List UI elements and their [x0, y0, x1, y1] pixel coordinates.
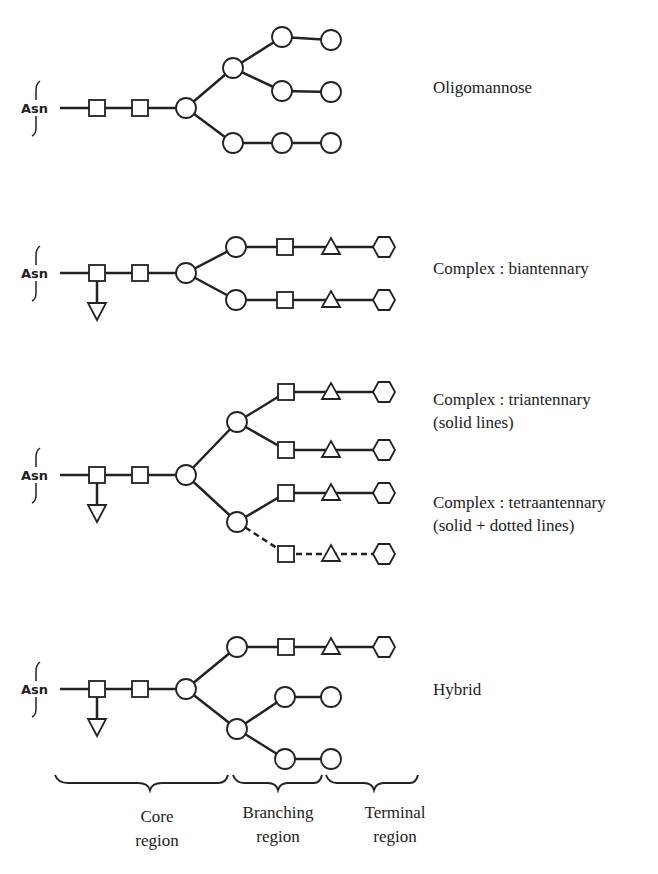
fucose-triangle-icon — [88, 505, 106, 522]
circle-icon — [227, 637, 247, 657]
glycan-diagram: AsnAsnAsnAsn Oligomannose Complex : bian… — [0, 0, 658, 874]
circle-icon — [275, 687, 295, 707]
circle-icon — [227, 719, 247, 739]
square-icon — [132, 100, 148, 116]
circle-icon — [321, 82, 341, 102]
hexagon-icon — [373, 237, 395, 257]
circle-icon — [275, 749, 295, 769]
asn-label: Asn — [21, 468, 48, 483]
square-icon — [277, 239, 293, 255]
square-icon — [132, 265, 148, 281]
square-icon — [277, 292, 293, 308]
asn-label: Asn — [21, 266, 48, 281]
circle-icon — [272, 81, 292, 101]
label-oligomannose: Oligomannose — [433, 78, 532, 97]
core-region-label-2: region — [135, 831, 179, 850]
bond-line — [186, 422, 237, 475]
hexagon-icon — [373, 382, 395, 402]
square-icon — [89, 467, 105, 483]
asn-label: Asn — [21, 101, 48, 116]
square-icon — [278, 639, 294, 655]
label-triantennary: Complex : triantennary — [433, 390, 591, 409]
hexagon-icon — [373, 483, 395, 503]
square-icon — [278, 485, 294, 501]
square-icon — [278, 546, 294, 562]
circle-icon — [223, 58, 243, 78]
circle-icon — [321, 749, 341, 769]
circle-icon — [176, 98, 196, 118]
circle-icon — [223, 133, 243, 153]
circle-icon — [272, 27, 292, 47]
label-hybrid: Hybrid — [433, 680, 482, 699]
label-triantennary-note: (solid lines) — [433, 413, 514, 432]
hexagon-icon — [373, 440, 395, 460]
terminal-region-label-2: region — [373, 827, 417, 846]
branching-region-brace — [233, 775, 322, 790]
circle-icon — [176, 263, 196, 283]
circle-icon — [321, 687, 341, 707]
circle-icon — [272, 133, 292, 153]
label-tetraantennary: Complex : tetraantennary — [433, 493, 606, 512]
label-tetraantennary-note: (solid + dotted lines) — [433, 516, 574, 535]
circle-icon — [227, 512, 247, 532]
circle-icon — [226, 290, 246, 310]
hexagon-icon — [373, 544, 395, 564]
square-icon — [89, 681, 105, 697]
branching-region-label-2: region — [256, 827, 300, 846]
square-icon — [278, 442, 294, 458]
square-icon — [89, 265, 105, 281]
terminal-region-brace — [326, 775, 418, 790]
square-icon — [132, 467, 148, 483]
asn-anchors: AsnAsnAsnAsn — [21, 81, 48, 717]
square-icon — [89, 100, 105, 116]
fucose-triangle-icon — [88, 719, 106, 736]
square-icon — [278, 384, 294, 400]
circle-icon — [227, 412, 247, 432]
square-icon — [132, 681, 148, 697]
hexagon-icon — [373, 290, 395, 310]
asn-label: Asn — [21, 682, 48, 697]
circle-icon — [321, 133, 341, 153]
circle-icon — [176, 465, 196, 485]
core-region-label: Core — [140, 807, 173, 826]
fucose-triangle-icon — [88, 303, 106, 320]
circle-icon — [176, 679, 196, 699]
nodes — [88, 27, 395, 769]
label-biantennary: Complex : biantennary — [433, 259, 589, 278]
core-region-brace — [55, 775, 228, 790]
circle-icon — [226, 237, 246, 257]
circle-icon — [321, 30, 341, 50]
branching-region-label: Branching — [243, 803, 314, 822]
hexagon-icon — [373, 637, 395, 657]
terminal-region-label: Terminal — [364, 803, 425, 822]
triangle-icon — [322, 545, 340, 561]
